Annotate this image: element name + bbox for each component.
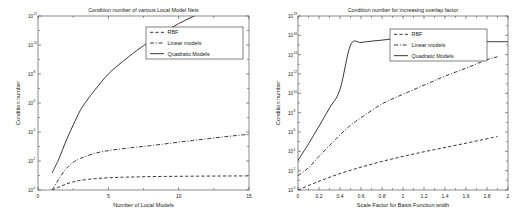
x-tick-label: 15 [246,193,252,199]
chart-title: Condition number for increasing overlap … [348,7,459,13]
x-tick-label: 2 [507,193,510,199]
x-tick-label: 0 [37,193,40,199]
y-axis-label: Condition number [15,81,21,125]
x-axis-label: Scale Factor for Basis Function width [357,202,449,208]
y-tick-exponent: 2 [33,157,35,161]
chart-title: Condition number of various Local Model … [88,7,199,13]
series-curve-rbf [298,136,498,190]
y-tick-exponent: 18 [293,12,297,16]
x-tick-label: 1.8 [484,193,491,199]
x-tick-label: 0.6 [358,193,365,199]
y-tick-exponent: 16 [293,32,297,36]
legend-label-quadratic-models: Quadratic Models [168,51,211,57]
y-tick-exponent: 14 [293,51,297,55]
y-axis-label: Condition number [275,81,281,125]
y-tick-exponent: 0 [33,186,35,190]
x-tick-label: 1.6 [463,193,470,199]
series-curve-quadratic-models [52,0,249,173]
chart-panel-left: Condition number of various Local Model … [0,0,258,219]
y-tick-exponent: 12 [293,70,297,74]
legend-label-rbf: RBF [412,31,423,37]
legend-label-linear-models: Linear models [168,40,202,46]
legend-label-rbf: RBF [168,29,179,35]
y-tick-exponent: 10 [293,90,297,94]
y-tick-exponent: 12 [33,12,37,16]
right-chart-svg: Condition number for increasing overlap … [258,0,517,219]
y-tick-exponent: 6 [293,128,295,132]
y-tick-exponent: 4 [33,128,35,132]
x-tick-label: 1.2 [421,193,428,199]
y-tick-exponent: 0 [293,186,295,190]
left-chart-svg: Condition number of various Local Model … [0,0,258,219]
y-tick-exponent: 10 [33,41,37,45]
chart-panel-right: Condition number for increasing overlap … [258,0,517,219]
x-tick-label: 0.4 [337,193,344,199]
y-tick-exponent: 2 [293,167,295,171]
x-tick-label: 1 [402,193,405,199]
y-tick-exponent: 6 [33,99,35,103]
y-tick-exponent: 8 [293,109,295,113]
x-tick-label: 0.8 [379,193,386,199]
x-tick-label: 10 [176,193,182,199]
x-tick-label: 5 [107,193,110,199]
series-curve-linear-models [52,134,249,190]
series-curve-rbf [52,176,249,190]
figure-container: Condition number of various Local Model … [0,0,517,219]
legend-label-quadratic-models: Quadratic Models [412,53,455,59]
legend-label-linear-models: Linear models [412,42,446,48]
x-tick-label: 1.4 [442,193,449,199]
x-tick-label: 0.2 [316,193,323,199]
y-tick-exponent: 8 [33,70,35,74]
x-tick-label: 0 [297,193,300,199]
y-tick-exponent: 4 [293,148,295,152]
x-axis-label: Number of Local Models [113,202,174,208]
